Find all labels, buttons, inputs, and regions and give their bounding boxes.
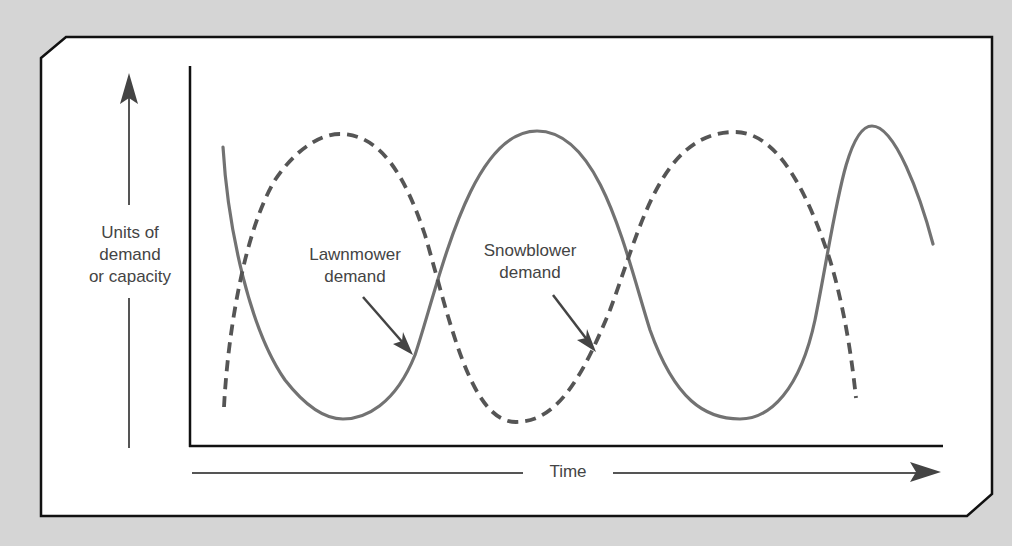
snowblower-demand-label: Snowblower demand <box>455 240 605 284</box>
snowblower-label-line-1: Snowblower <box>455 240 605 262</box>
lawnmower-label-line-1: Lawnmower <box>280 244 430 266</box>
lawnmower-demand-label: Lawnmower demand <box>280 244 430 288</box>
y-axis-label-line-3: or capacity <box>70 266 190 288</box>
y-axis-label-line-1: Units of <box>70 222 190 244</box>
snowblower-label-line-2: demand <box>455 262 605 284</box>
lawnmower-label-line-2: demand <box>280 266 430 288</box>
x-axis-label: Time <box>528 461 608 483</box>
y-axis-label: Units of demand or capacity <box>70 222 190 288</box>
y-axis-label-line-2: demand <box>70 244 190 266</box>
